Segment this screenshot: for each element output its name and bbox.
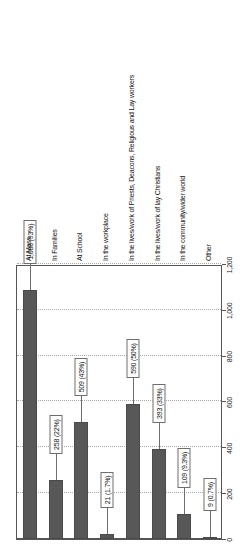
category-label: In the lives/work of Priests, Deacons, R… (125, 75, 139, 261)
bar (203, 537, 217, 539)
axis-tick-label: 400 (226, 443, 233, 454)
category-label: At Mass (22, 237, 36, 261)
category-label: At School (73, 233, 87, 261)
category-label: In the workplace (99, 213, 113, 261)
data-label: 9 (0.7%) (204, 478, 217, 511)
axis-tick-label: 200 (226, 489, 233, 500)
bar-row: 393 (33%) (152, 264, 166, 539)
category-label: In Families (48, 229, 62, 261)
bar-chart-figure: 1,088 (93%)258 (22%)509 (43%)21 (1.7%)59… (0, 0, 250, 548)
category-label: In the lives/work of lay Christians (151, 166, 165, 261)
category-label: Other (202, 244, 216, 261)
bar-row: 258 (22%) (49, 264, 63, 539)
bar-row: 9 (0.7%) (203, 264, 217, 539)
bar (100, 534, 114, 539)
bar (177, 514, 191, 539)
category-axis-labels: At MassIn FamiliesAt SchoolIn the workpl… (16, 6, 222, 261)
leader-line (133, 378, 134, 404)
axis-tick-label: 800 (226, 351, 233, 362)
bar (49, 480, 63, 539)
bars-group: 1,088 (93%)258 (22%)509 (43%)21 (1.7%)59… (17, 266, 221, 539)
bar (23, 290, 37, 539)
data-label: 509 (43%) (75, 358, 88, 397)
axis-tick-label: 600 (226, 397, 233, 408)
rotated-figure-wrapper: 1,088 (93%)258 (22%)509 (43%)21 (1.7%)59… (0, 0, 250, 548)
data-label: 21 (1.7%) (101, 472, 114, 509)
bar-row: 590 (50%) (126, 264, 140, 539)
bar-row: 109 (9.3%) (177, 264, 191, 539)
category-label: In the community/wider world (176, 176, 190, 261)
data-label: 393 (33%) (152, 384, 165, 423)
leader-line (56, 454, 57, 480)
leader-line (81, 396, 82, 422)
plot-area: 1,088 (93%)258 (22%)509 (43%)21 (1.7%)59… (16, 265, 222, 540)
bar-row: 1,088 (93%) (23, 264, 37, 539)
bar-row: 509 (43%) (74, 264, 88, 539)
leader-line (30, 264, 31, 290)
axis-tick-label: 1,200 (226, 257, 233, 274)
axis-tick-label: 1,000 (226, 303, 233, 320)
data-label: 109 (9.3%) (178, 448, 191, 488)
value-axis: 02004006008001,0001,200 (222, 265, 248, 540)
axis-tick-label: 0 (226, 538, 233, 542)
leader-line (159, 423, 160, 449)
bar-row: 21 (1.7%) (100, 264, 114, 539)
bar (152, 449, 166, 539)
data-label: 590 (50%) (126, 339, 139, 378)
leader-line (184, 488, 185, 514)
leader-line (107, 508, 108, 534)
data-label: 258 (22%) (49, 415, 62, 454)
bar (74, 422, 88, 539)
leader-line (210, 511, 211, 537)
chart-page: 1,088 (93%)258 (22%)509 (43%)21 (1.7%)59… (0, 0, 250, 548)
bar (126, 404, 140, 539)
